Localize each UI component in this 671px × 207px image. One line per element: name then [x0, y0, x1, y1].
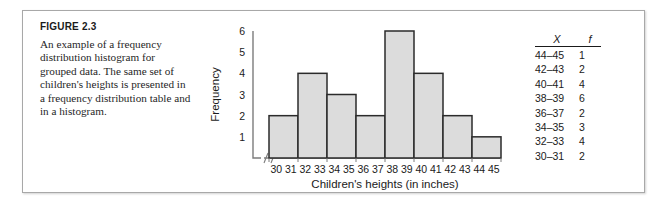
- table-cell-interval: 32–33: [535, 135, 579, 149]
- table-row: 30–312: [535, 149, 601, 163]
- table-row: 38–396: [535, 92, 601, 106]
- table-cell-interval: 42–43: [535, 63, 579, 77]
- x-tick-label: 37: [372, 163, 384, 175]
- table-cell-interval: 44–45: [535, 47, 579, 63]
- figure-caption-text: An example of a frequency distribution h…: [40, 38, 192, 118]
- figure-panel: FIGURE 2.3 An example of a frequency dis…: [22, 10, 645, 193]
- x-tick-label: 33: [314, 163, 326, 175]
- column-header-f: f: [579, 33, 601, 47]
- histogram-bar: [327, 95, 356, 159]
- x-tick-label: 35: [343, 163, 355, 175]
- x-tick-label: 42: [444, 163, 456, 175]
- histogram-bar: [356, 116, 385, 158]
- y-axis-line: [253, 31, 261, 158]
- y-tick-label: 3: [239, 89, 245, 101]
- y-tick-label: 4: [239, 67, 245, 79]
- figure-title: FIGURE 2.3: [40, 21, 192, 32]
- x-tick-label: 44: [473, 163, 485, 175]
- frequency-histogram: 12345630313233343536373839404142434445Ch…: [201, 15, 511, 190]
- x-tick-label: 30: [270, 163, 282, 175]
- x-tick-label: 45: [488, 163, 500, 175]
- x-tick-label: 34: [328, 163, 340, 175]
- histogram-bar: [385, 31, 414, 158]
- table-cell-interval: 36–37: [535, 106, 579, 120]
- table-cell-frequency: 2: [579, 149, 601, 163]
- table-cell-interval: 34–35: [535, 120, 579, 134]
- y-tick-label: 2: [239, 110, 245, 122]
- x-tick-label: 43: [459, 163, 471, 175]
- table-cell-frequency: 4: [579, 135, 601, 149]
- x-tick-label: 40: [415, 163, 427, 175]
- x-tick-label: 39: [401, 163, 413, 175]
- x-tick-label: 31: [285, 163, 297, 175]
- x-axis-title: Children's heights (in inches): [311, 178, 458, 190]
- histogram-bar: [269, 116, 298, 158]
- table-cell-frequency: 2: [579, 106, 601, 120]
- table-cell-interval: 40–41: [535, 77, 579, 91]
- table-row: 44–451: [535, 47, 601, 63]
- frequency-distribution-table: X f 44–45142–43240–41438–39636–37234–353…: [535, 33, 621, 164]
- table-row: 42–432: [535, 63, 601, 77]
- y-tick-label: 1: [239, 131, 245, 143]
- table-row: 40–414: [535, 77, 601, 91]
- x-tick-label: 36: [357, 163, 369, 175]
- table-cell-frequency: 4: [579, 77, 601, 91]
- table-cell-frequency: 3: [579, 120, 601, 134]
- table-cell-frequency: 6: [579, 92, 601, 106]
- column-header-x: X: [535, 33, 579, 47]
- freq-table-head: X f: [535, 33, 601, 47]
- histogram-bar: [443, 116, 472, 158]
- x-tick-label: 32: [299, 163, 311, 175]
- histogram-svg: 12345630313233343536373839404142434445Ch…: [201, 15, 511, 190]
- freq-table-body: 44–45142–43240–41438–39636–37234–35332–3…: [535, 47, 601, 164]
- table-row: 34–353: [535, 120, 601, 134]
- freq-table-element: X f 44–45142–43240–41438–39636–37234–353…: [535, 33, 601, 164]
- table-row: 32–334: [535, 135, 601, 149]
- x-tick-label: 41: [430, 163, 442, 175]
- y-axis-title: Frequency: [209, 67, 221, 122]
- histogram-bar: [472, 137, 501, 158]
- table-row: 36–372: [535, 106, 601, 120]
- y-tick-label: 5: [239, 46, 245, 58]
- y-tick-label: 6: [239, 25, 245, 37]
- histogram-bar: [298, 73, 327, 158]
- table-cell-frequency: 1: [579, 47, 601, 63]
- table-header-row: X f: [535, 33, 601, 47]
- figure-caption-block: FIGURE 2.3 An example of a frequency dis…: [40, 21, 192, 118]
- table-cell-interval: 30–31: [535, 149, 579, 163]
- histogram-bar: [414, 73, 443, 158]
- x-tick-label: 38: [386, 163, 398, 175]
- table-cell-frequency: 2: [579, 63, 601, 77]
- table-cell-interval: 38–39: [535, 92, 579, 106]
